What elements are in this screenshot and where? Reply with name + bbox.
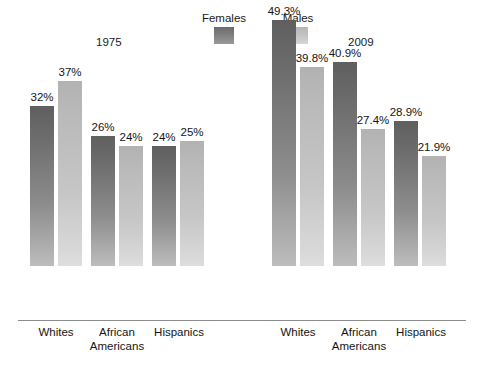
bar-1975-african-americans-males[interactable]: 24% [119, 146, 143, 266]
bar-value-label: 26% [91, 121, 114, 134]
bar-2009-african-americans-males[interactable]: 27.4% [361, 129, 385, 266]
bar-value-label: 40.9% [329, 47, 362, 60]
bar-value-label: 37% [58, 66, 81, 79]
bar-value-label: 49.3% [268, 5, 301, 18]
bar-1975-whites-females[interactable]: 32% [30, 106, 54, 266]
bar-chart: Females Males 1975 2009 32% 37% 26% 24% … [0, 0, 478, 376]
x-tick-label-1975-hispanics: Hispanics [154, 326, 204, 340]
plot-area: 32% 37% 26% 24% 24% 25% 49.3% 39.8% 40.9… [0, 0, 478, 322]
bar-value-label: 39.8% [296, 52, 329, 65]
x-tick-label-1975-whites: Whites [38, 326, 73, 340]
x-tick-label-1975-african-americans: African Americans [90, 326, 144, 353]
bar-2009-hispanics-females[interactable]: 28.9% [394, 121, 418, 266]
bar-value-label: 24% [152, 131, 175, 144]
bar-1975-hispanics-females[interactable]: 24% [152, 146, 176, 266]
x-tick-label-2009-whites: Whites [280, 326, 315, 340]
x-tick-label-2009-african-americans: African Americans [332, 326, 386, 353]
bar-1975-whites-males[interactable]: 37% [58, 81, 82, 266]
bar-value-label: 27.4% [357, 114, 390, 127]
bar-value-label: 21.9% [418, 141, 451, 154]
bar-2009-hispanics-males[interactable]: 21.9% [422, 156, 446, 266]
bar-value-label: 25% [180, 126, 203, 139]
x-tick-label-2009-hispanics: Hispanics [396, 326, 446, 340]
bar-2009-whites-males[interactable]: 39.8% [300, 67, 324, 266]
bar-2009-african-americans-females[interactable]: 40.9% [333, 62, 357, 266]
bar-value-label: 24% [119, 131, 142, 144]
bar-2009-whites-females[interactable]: 49.3% [272, 20, 296, 266]
bar-1975-hispanics-males[interactable]: 25% [180, 141, 204, 266]
x-axis-line [18, 320, 466, 321]
bar-1975-african-americans-females[interactable]: 26% [91, 136, 115, 266]
bar-value-label: 28.9% [390, 106, 423, 119]
bar-value-label: 32% [30, 91, 53, 104]
